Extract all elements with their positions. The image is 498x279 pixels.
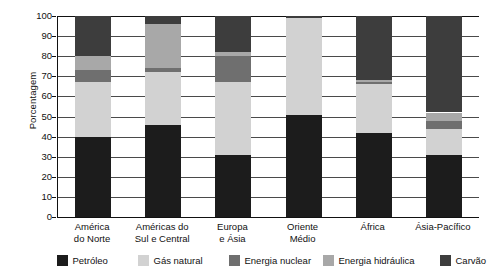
bar-segment[interactable] [426, 155, 462, 217]
legend-label: Energia hidráulica [339, 255, 415, 266]
bar-group[interactable] [426, 16, 462, 217]
y-tick-mark [52, 217, 56, 218]
legend-item[interactable]: Petróleo [57, 253, 108, 267]
bar-segment[interactable] [426, 129, 462, 155]
bar-segment[interactable] [215, 155, 251, 217]
y-tick-label: 40 [6, 132, 52, 142]
bar-group[interactable] [215, 16, 251, 217]
legend-swatch [229, 255, 240, 266]
legend-swatch [440, 255, 451, 266]
y-tick-mark [52, 16, 56, 17]
legend-swatch [138, 255, 149, 266]
y-tick-mark [52, 96, 56, 97]
legend-item[interactable]: Carvão [440, 253, 486, 267]
y-tick-mark [52, 197, 56, 198]
bar-segment[interactable] [75, 56, 111, 70]
stacked-bar[interactable] [426, 16, 462, 217]
bar-segment[interactable] [286, 115, 322, 218]
y-tick-label: 20 [6, 172, 52, 182]
bar-segment[interactable] [75, 16, 111, 56]
y-tick-label: 10 [6, 192, 52, 202]
bar-segment[interactable] [145, 24, 181, 68]
y-tick-label: 60 [6, 91, 52, 101]
bar-segment[interactable] [215, 56, 251, 82]
bar-segment[interactable] [145, 72, 181, 124]
x-tick-label: Europae Ásia [197, 221, 267, 244]
bar-segment[interactable] [286, 18, 322, 114]
legend-label: Carvão [456, 255, 487, 266]
bar-segment[interactable] [215, 52, 251, 56]
bar-segment[interactable] [145, 125, 181, 217]
plot-area [57, 16, 479, 218]
bar-group[interactable] [75, 16, 111, 217]
bar-segment[interactable] [75, 137, 111, 217]
bar-segment[interactable] [215, 16, 251, 52]
bar-segment[interactable] [145, 16, 181, 24]
bar-segment[interactable] [426, 113, 462, 121]
y-tick-mark [52, 117, 56, 118]
stacked-bar-chart: Porcentagem 1009080706050403020100 Améri… [0, 0, 498, 279]
bar-segment[interactable] [356, 80, 392, 82]
y-tick-mark [52, 36, 56, 37]
x-tick-label: Ásia-Pacífico [408, 221, 478, 233]
y-tick-label: 30 [6, 152, 52, 162]
legend-label: Energia nuclear [245, 255, 312, 266]
bar-segment[interactable] [356, 16, 392, 80]
stacked-bar[interactable] [75, 16, 111, 217]
bar-segment[interactable] [426, 121, 462, 129]
bars-layer [58, 16, 479, 217]
bar-segment[interactable] [75, 70, 111, 82]
y-tick-mark [52, 157, 56, 158]
x-tick-label: África [338, 221, 408, 233]
bar-group[interactable] [145, 16, 181, 217]
y-tick-mark [52, 137, 56, 138]
x-axis-labels: Américado NorteAméricas doSul e CentralE… [57, 221, 478, 251]
y-tick-label: 90 [6, 31, 52, 41]
x-tick-label: OrienteMédio [268, 221, 338, 244]
y-tick-mark [52, 56, 56, 57]
y-tick-mark [52, 177, 56, 178]
bar-group[interactable] [356, 16, 392, 217]
legend-item[interactable]: Energia nuclear [229, 253, 311, 267]
bar-segment[interactable] [356, 133, 392, 217]
bar-segment[interactable] [75, 82, 111, 136]
y-tick-label: 80 [6, 51, 52, 61]
legend-label: Gás natural [154, 255, 203, 266]
legend-swatch [323, 255, 334, 266]
stacked-bar[interactable] [356, 16, 392, 217]
legend-item[interactable]: Energia hidráulica [323, 253, 415, 267]
bar-segment[interactable] [286, 16, 322, 18]
x-tick-label: Américado Norte [57, 221, 127, 244]
stacked-bar[interactable] [215, 16, 251, 217]
legend-label: Petróleo [73, 255, 108, 266]
x-tick-label: Américas doSul e Central [127, 221, 197, 244]
bar-segment[interactable] [426, 16, 462, 112]
y-tick-label: 50 [6, 112, 52, 122]
bar-segment[interactable] [145, 68, 181, 72]
y-tick-label: 0 [6, 212, 52, 222]
chart-legend: PetróleoGás naturalEnergia nuclearEnergi… [0, 253, 498, 273]
legend-swatch [57, 255, 68, 266]
y-tick-label: 70 [6, 71, 52, 81]
y-tick-mark [52, 76, 56, 77]
stacked-bar[interactable] [286, 16, 322, 217]
stacked-bar[interactable] [145, 16, 181, 217]
bar-segment[interactable] [356, 84, 392, 132]
y-axis-ticks: 1009080706050403020100 [0, 16, 52, 217]
bar-segment[interactable] [356, 82, 392, 84]
legend-item[interactable]: Gás natural [138, 253, 203, 267]
bar-group[interactable] [286, 16, 322, 217]
y-tick-label: 100 [6, 11, 52, 21]
bar-segment[interactable] [215, 82, 251, 154]
